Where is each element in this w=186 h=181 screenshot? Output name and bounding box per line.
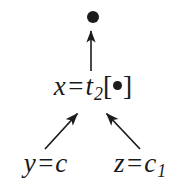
left-leaf-rhs-constant: c	[55, 148, 67, 178]
math-diagram-canvas: ● x=t2[●] y=c z=c1	[0, 0, 186, 181]
arrow-left-leaf-to-middle	[45, 114, 78, 150]
arrow-right-leaf-to-middle	[107, 114, 141, 150]
root-node: ●	[0, 2, 186, 27]
middle-relation-symbol: =	[68, 71, 83, 101]
right-leaf-relation-symbol: =	[127, 148, 142, 178]
bracket-close: ]	[123, 70, 132, 101]
right-leaf-lhs-variable: z	[114, 148, 125, 178]
left-leaf-lhs-variable: y	[24, 148, 36, 178]
middle-function-symbol: t	[85, 71, 93, 101]
argument-filled-bullet-icon: ●	[113, 81, 122, 90]
right-leaf-rhs-subscript: 1	[157, 161, 166, 181]
middle-function-subscript: 2	[94, 84, 103, 104]
right-leaf-rhs-constant: c	[144, 148, 156, 178]
left-leaf-relation-symbol: =	[38, 148, 53, 178]
filled-bullet-icon: ●	[87, 11, 99, 23]
right-leaf-node: z=c1	[94, 150, 186, 181]
middle-lhs-variable: x	[54, 71, 66, 101]
middle-expression-node: x=t2[●]	[0, 72, 186, 104]
left-leaf-node: y=c	[0, 150, 92, 181]
bracket-open: [	[103, 70, 112, 101]
